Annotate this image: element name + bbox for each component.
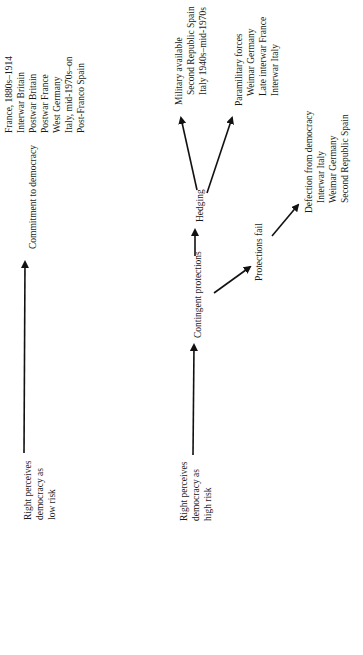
arrow-high-risk-to-contingent — [193, 345, 194, 455]
hedging-node: Hedging — [194, 189, 206, 222]
high-risk-start-label: Right perceives democracy as high risk — [178, 462, 214, 521]
hedging-label: Hedging — [194, 189, 206, 222]
arrow-low-risk-to-commitment — [24, 262, 25, 453]
case-item: Post-Franco Spain — [75, 56, 87, 133]
arrow-contingent-to-fail — [214, 267, 250, 293]
label-line: Right perceives — [22, 461, 34, 520]
case-item: Italy 1940s–mid-1970s — [197, 6, 209, 105]
label-line: low risk — [46, 461, 58, 520]
paramilitary-node: Paramilitary forces Weimar Germany Late … — [233, 17, 281, 106]
case-item: Interwar Italy — [315, 111, 327, 213]
military-title: Military available — [173, 6, 185, 105]
case-item: Weimar Germany — [327, 111, 339, 213]
arrow-hedging-to-paramilitary — [207, 118, 232, 193]
low-risk-start-label: Right perceives democracy as low risk — [22, 461, 58, 520]
case-item: Second Republic Spain — [185, 6, 197, 105]
case-item: Postwar France — [39, 56, 51, 133]
case-item: Interwar Italy — [269, 17, 281, 106]
defection-title: Defection from democracy — [303, 111, 315, 213]
military-node: Military available Second Republic Spain… — [173, 6, 209, 105]
protections-fail-node: Protections fail — [253, 223, 265, 281]
case-item: Italy, mid-1970s–on — [63, 56, 75, 133]
case-item: Postwar Britain — [27, 56, 39, 133]
contingent-label: Contingent protections — [192, 251, 204, 338]
arrow-hedging-to-military — [181, 118, 197, 190]
label-line: Right perceives — [178, 462, 190, 521]
commitment-label: Commitment to democracy — [27, 145, 39, 249]
arrow-fail-to-defection — [272, 205, 298, 236]
commitment-cases: France, 1880s–1914 Interwar Britain Post… — [3, 56, 87, 133]
paramilitary-title: Paramilitary forces — [233, 17, 245, 106]
case-item: Late interwar France — [257, 17, 269, 106]
commitment-node: Commitment to democracy — [27, 145, 39, 249]
label-line: high risk — [202, 462, 214, 521]
case-item: West Germany — [51, 56, 63, 133]
case-item: Second Republic Spain — [339, 111, 351, 213]
label-line: democracy as — [190, 462, 202, 521]
case-item: France, 1880s–1914 — [3, 56, 15, 133]
fail-label: Protections fail — [253, 223, 265, 281]
case-item: Weimar Germany — [245, 17, 257, 106]
label-line: democracy as — [34, 461, 46, 520]
contingent-protections-node: Contingent protections — [192, 251, 204, 338]
case-item: Interwar Britain — [15, 56, 27, 133]
defection-node: Defection from democracy Interwar Italy … — [303, 111, 351, 213]
